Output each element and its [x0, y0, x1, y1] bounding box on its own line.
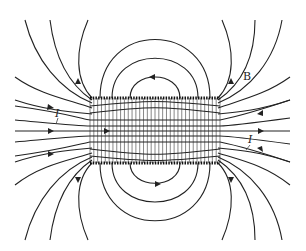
exterior-field-lines	[15, 20, 290, 240]
field-label-b: B	[243, 70, 251, 83]
current-label-left: I	[54, 107, 60, 120]
solenoid-field-diagram: B I I	[0, 0, 306, 251]
current-label-right: I	[247, 133, 253, 146]
